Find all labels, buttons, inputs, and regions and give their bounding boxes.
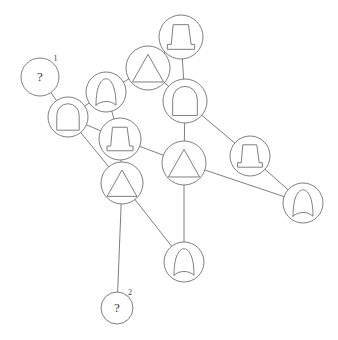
edge-n2-n3 [85,103,90,106]
diagram-canvas: ?1?2 [0,0,338,340]
node-triangle-left-outline [101,162,143,204]
edge-n3-n4 [123,79,129,82]
node-question-1-superscript-label: 1 [54,54,58,63]
node-bullet-right[interactable] [283,183,323,223]
node-bullet-bottom-outline [164,242,204,282]
edge-n5-n6 [182,59,183,79]
edge-n7-n9 [140,146,164,155]
edge-n2-n7 [86,125,100,131]
edge-n8-n13 [118,204,122,292]
edge-n1-n2 [51,93,57,101]
question-mark-icon: ? [37,69,43,84]
node-arch-left-outline [48,97,88,137]
edge-n6-n10 [202,115,235,143]
node-bell-middle-outline [99,118,141,160]
node-triangle-left[interactable] [101,162,143,204]
node-triangle-top-outline [126,46,170,90]
node-bullet-right-outline [283,183,323,223]
node-triangle-center-outline [162,141,206,185]
node-arch-right-outline [163,79,207,123]
node-triangle-top[interactable] [126,46,170,90]
edge-n3-n7 [112,111,114,119]
node-bullet-bottom[interactable] [164,242,204,282]
node-question-2-superscript-label: 2 [128,288,132,297]
edge-n8-n12 [135,200,172,247]
node-question-2[interactable]: ?2 [101,288,133,324]
node-bell-top-outline [159,15,203,59]
node-bullet-upper[interactable] [86,72,126,112]
node-arch-left[interactable] [48,97,88,137]
node-bell-right[interactable] [230,136,270,176]
node-triangle-center[interactable] [162,141,206,185]
edge-n4-n6 [164,83,168,87]
node-layer: ?1?2 [21,15,323,324]
question-mark-icon: ? [114,300,120,315]
edge-n10-n11 [265,169,288,189]
node-arch-right[interactable] [163,79,207,123]
node-bell-middle[interactable] [99,118,141,160]
node-question-1[interactable]: ?1 [21,54,59,96]
node-bullet-upper-outline [86,72,126,112]
node-bell-top[interactable] [159,15,203,59]
node-bell-right-outline [230,136,270,176]
graph-svg: ?1?2 [0,0,338,340]
